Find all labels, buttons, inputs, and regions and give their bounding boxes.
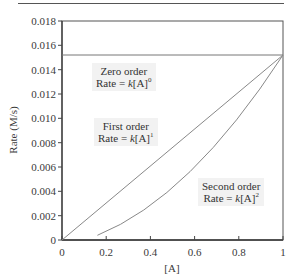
first-order-title: First order xyxy=(98,120,154,132)
x-tick-label: 0 xyxy=(59,246,65,258)
second-order-label: Second order Rate = k[A]2 xyxy=(198,178,264,206)
y-tick-label: 0.018 xyxy=(31,15,56,27)
y-tick-label: 0.002 xyxy=(31,210,56,222)
y-tick-label: 0.004 xyxy=(31,185,56,197)
second-order-equation: Rate = k[A]2 xyxy=(202,192,260,204)
y-tick-label: 0.014 xyxy=(31,64,56,76)
x-tick-label: 0.8 xyxy=(232,246,246,258)
x-tick-label: 0.6 xyxy=(188,246,202,258)
zero-order-label: Zero order Rate = k[A]0 xyxy=(92,63,156,91)
x-tick-labels: 0 0.2 0.4 0.6 0.8 1 xyxy=(59,246,286,258)
concentration: [A] xyxy=(133,77,148,89)
equation-prefix: Rate = xyxy=(96,77,128,89)
exponent: 2 xyxy=(255,191,259,199)
first-order-equation: Rate = k[A]1 xyxy=(98,132,154,144)
y-tick-label: 0.010 xyxy=(31,112,56,124)
concentration: [A] xyxy=(135,132,150,144)
y-tick-label: 0 xyxy=(51,234,57,246)
first-order-label: First order Rate = k[A]1 xyxy=(94,118,158,146)
y-tick-labels: 0 0.002 0.004 0.006 0.008 0.010 0.012 0.… xyxy=(31,15,56,246)
concentration: [A] xyxy=(240,192,255,204)
second-order-title: Second order xyxy=(202,180,260,192)
zero-order-title: Zero order xyxy=(96,65,152,77)
exponent: 1 xyxy=(150,131,154,139)
x-tick-label: 0.2 xyxy=(99,246,113,258)
y-tick-label: 0.008 xyxy=(31,137,56,149)
y-axis-title: Rate (M/s) xyxy=(7,106,20,154)
zero-order-equation: Rate = k[A]0 xyxy=(96,77,152,89)
equation-prefix: Rate = xyxy=(203,192,235,204)
equation-prefix: Rate = xyxy=(98,132,130,144)
x-axis-title: [A] xyxy=(164,262,179,274)
x-tick-label: 1 xyxy=(280,246,286,258)
y-tick-label: 0.006 xyxy=(31,161,56,173)
y-tick-label: 0.012 xyxy=(31,88,56,100)
y-tick-label: 0.016 xyxy=(31,39,56,51)
exponent: 0 xyxy=(148,76,152,84)
x-tick-label: 0.4 xyxy=(144,246,158,258)
